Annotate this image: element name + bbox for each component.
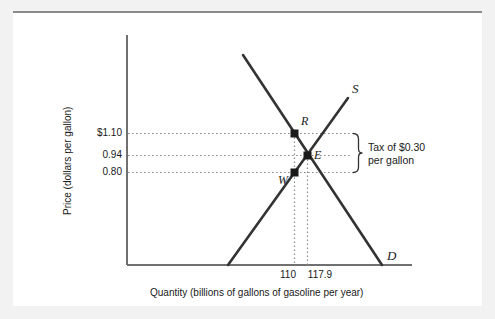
point-label-e: E — [314, 149, 321, 163]
x-tick-label-117-9: 117.9 — [300, 269, 340, 281]
tax-brace — [353, 134, 362, 173]
supply-curve-label: S — [352, 82, 359, 97]
point-label-r: R — [301, 115, 308, 129]
tax-annotation-line-1: Tax of $0.30 — [368, 141, 425, 154]
demand-curve — [243, 55, 382, 265]
demand-curve-label: D — [387, 249, 396, 264]
x-axis-title: Quantity (billions of gallons of gasolin… — [150, 287, 363, 299]
point-marker-w — [291, 169, 299, 177]
point-marker-e — [304, 152, 312, 160]
point-marker-r — [291, 130, 299, 138]
y-axis-title: Price (dollars per gallon) — [62, 107, 74, 215]
figure-root: $1.10 0.94 0.80 Price (dollars per gallo… — [0, 0, 495, 319]
point-label-w: W — [278, 174, 288, 188]
tax-annotation-line-2: per gallon — [368, 154, 414, 167]
